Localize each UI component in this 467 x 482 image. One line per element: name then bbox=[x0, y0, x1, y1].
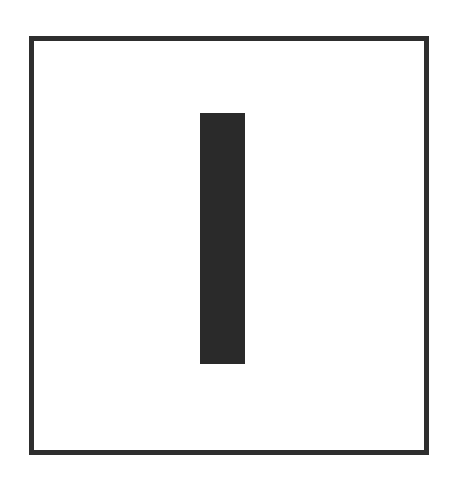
diagram-canvas bbox=[0, 0, 467, 482]
vertical-bar bbox=[200, 113, 245, 364]
